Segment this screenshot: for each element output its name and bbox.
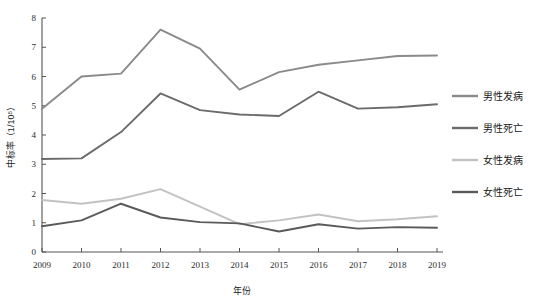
series-line-0: [42, 30, 437, 109]
chart-figure: 中标率（1/10⁵） 012345678 2009201020112012201…: [0, 0, 533, 302]
y-tick-label: 0: [32, 247, 37, 257]
legend-label-2: 女性发病: [483, 154, 523, 166]
legend-label-0: 男性发病: [483, 90, 523, 102]
series-group: [42, 30, 437, 232]
y-tick-label: 3: [32, 159, 37, 169]
y-tick-label: 1: [32, 218, 37, 228]
y-tick-group: 012345678: [32, 13, 47, 257]
line-chart: 中标率（1/10⁵） 012345678 2009201020112012201…: [0, 0, 533, 302]
y-tick-label: 2: [32, 189, 37, 199]
chart-legend: 男性发病男性死亡女性发病女性死亡: [452, 90, 523, 198]
x-tick-label: 2010: [73, 260, 92, 270]
x-tick-label: 2013: [191, 260, 210, 270]
x-tick-label: 2019: [428, 260, 447, 270]
x-tick-label: 2018: [389, 260, 408, 270]
x-tick-label: 2014: [231, 260, 250, 270]
y-tick-label: 6: [32, 72, 37, 82]
y-axis-title: 中标率（1/10⁵）: [5, 102, 16, 168]
x-tick-label: 2009: [33, 260, 52, 270]
y-tick-label: 4: [32, 130, 37, 140]
x-axis-title: 年份: [233, 285, 251, 296]
legend-label-3: 女性死亡: [483, 186, 523, 198]
x-tick-group: 2009201020112012201320142015201620172018…: [33, 248, 447, 270]
y-tick-label: 7: [32, 42, 37, 52]
x-tick-label: 2012: [152, 260, 170, 270]
x-tick-label: 2017: [349, 260, 368, 270]
series-line-1: [42, 92, 437, 159]
x-tick-label: 2015: [270, 260, 289, 270]
x-tick-label: 2016: [310, 260, 329, 270]
series-line-2: [42, 189, 437, 224]
legend-label-1: 男性死亡: [483, 122, 523, 134]
series-line-3: [42, 204, 437, 232]
y-tick-label: 8: [32, 13, 37, 23]
y-tick-label: 5: [32, 101, 37, 111]
x-tick-label: 2011: [112, 260, 130, 270]
